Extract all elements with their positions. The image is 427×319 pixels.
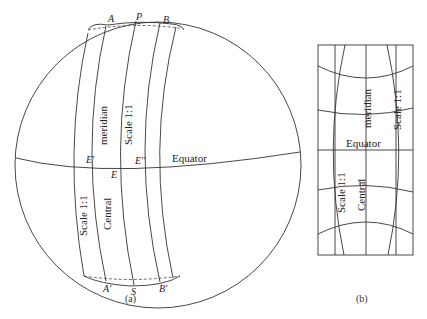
- panel-b-scale-upper-label: Scale 1:1: [391, 89, 403, 130]
- point-e-double-prime-label: E'': [134, 155, 146, 166]
- point-e-label: E: [110, 169, 117, 180]
- point-p-label: P: [135, 11, 142, 22]
- strip-line-4: [145, 23, 160, 282]
- central-label: Central: [101, 198, 113, 230]
- globe-outline: [15, 22, 301, 308]
- panel-a-caption: (a): [125, 293, 136, 305]
- panel-b-equator-label: Equator: [346, 137, 381, 149]
- panel-a-globe: A P B A' S B' E' E E'' Equator meridian …: [15, 11, 301, 308]
- panel-b-central-label: Central: [355, 179, 367, 211]
- point-a-label: A: [107, 13, 115, 24]
- meridian-label: meridian: [97, 105, 109, 145]
- panel-b-meridian-label: meridian: [361, 88, 373, 128]
- parallel-south-2: [318, 222, 413, 234]
- parallel-north-1: [318, 66, 413, 78]
- scale-lower-label: Scale 1:1: [77, 195, 89, 236]
- point-a-prime-label: A': [102, 283, 112, 294]
- figure-canvas: A P B A' S B' E' E E'' Equator meridian …: [0, 0, 427, 319]
- equator-label: Equator: [172, 152, 207, 164]
- scale-upper-label: Scale 1:1: [122, 104, 134, 145]
- point-e-prime-label: E': [85, 154, 95, 165]
- point-b-label: B: [163, 14, 169, 25]
- point-b-prime-label: B': [159, 283, 168, 294]
- equator-line: [16, 152, 300, 169]
- central-meridian-line: [120, 21, 136, 285]
- panel-b-scale-lower-label: Scale 1:1: [335, 172, 347, 213]
- panel-b-grid: Equator meridian Scale 1:1 Scale 1:1 Cen…: [318, 45, 413, 305]
- panel-b-caption: (b): [356, 293, 368, 305]
